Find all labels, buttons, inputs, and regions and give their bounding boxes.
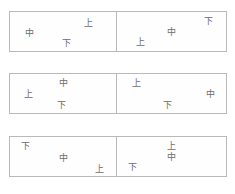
character-glyph: 下: [57, 101, 66, 110]
character-glyph: 下: [21, 141, 30, 150]
character-glyph: 中: [59, 153, 68, 162]
character-glyph: 上: [132, 78, 141, 87]
panel-row-3: 下中上 上中下: [9, 136, 227, 177]
panel-cell-row-3-left: 下中上: [10, 137, 117, 176]
character-glyph: 下: [128, 163, 137, 172]
character-glyph: 上: [84, 18, 93, 27]
panel-cell-row-3-right: 上中下: [117, 137, 226, 176]
character-glyph: 上: [24, 90, 33, 99]
character-glyph: 上: [95, 164, 104, 173]
character-glyph: 上: [136, 38, 145, 47]
panel-cell-row-1-right: 下中上: [117, 12, 226, 51]
character-glyph: 下: [163, 101, 172, 110]
character-glyph: 下: [62, 39, 71, 48]
character-glyph: 中: [206, 90, 215, 99]
character-glyph: 中: [59, 78, 68, 87]
character-glyph: 上: [167, 142, 176, 151]
character-glyph: 中: [25, 28, 34, 37]
character-glyph: 中: [167, 27, 176, 36]
panel-row-1: 上中下 下中上: [9, 11, 227, 52]
panel-row-2: 中上下 上中下: [9, 73, 227, 114]
figure-sheet: 上中下 下中上 中上下 上中下 下中上 上中下: [0, 0, 235, 194]
character-glyph: 下: [204, 16, 213, 25]
panel-cell-row-2-right: 上中下: [117, 74, 226, 113]
panel-cell-row-2-left: 中上下: [10, 74, 117, 113]
panel-cell-row-1-left: 上中下: [10, 12, 117, 51]
character-glyph: 中: [167, 152, 176, 161]
